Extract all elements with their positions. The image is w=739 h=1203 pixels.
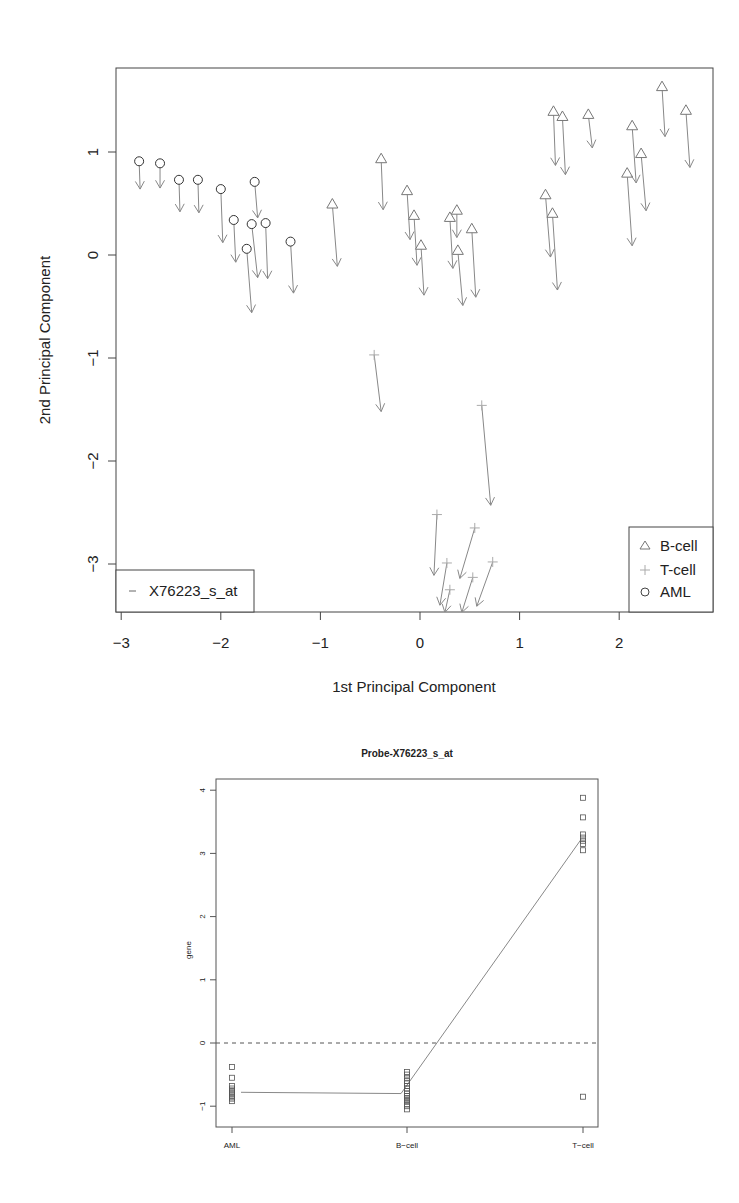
arrow-shaft	[247, 249, 252, 313]
bcell-point	[547, 208, 558, 218]
legend-aml-label: AML	[660, 583, 691, 600]
aml-point	[286, 237, 295, 246]
data-point	[230, 1099, 235, 1104]
aml-point	[216, 185, 225, 194]
arrow-shaft	[255, 182, 258, 218]
data-point	[581, 815, 586, 820]
plot-frame-2	[216, 779, 598, 1127]
bcell-point	[466, 223, 477, 233]
data-point	[230, 1091, 235, 1096]
data-point	[230, 1083, 235, 1088]
arrow-shaft	[374, 355, 381, 412]
data-point	[230, 1065, 235, 1070]
tcell-point	[477, 400, 487, 410]
bcell-point	[452, 245, 463, 255]
tcell-point	[369, 350, 379, 360]
aml-point	[156, 159, 165, 168]
data-point	[230, 1075, 235, 1080]
tcell-point	[468, 572, 478, 582]
bcell-point	[415, 240, 426, 250]
data-point	[405, 1083, 410, 1088]
plot-frame	[116, 68, 713, 612]
data-point	[230, 1088, 235, 1093]
y-tick-label: 2	[198, 914, 207, 919]
legend-gene: X76223_s_at	[116, 570, 254, 612]
data-point	[230, 1086, 235, 1091]
data-point	[581, 832, 586, 837]
arrow-shaft	[450, 218, 453, 268]
arrow-shaft	[266, 223, 268, 279]
arrow-shaft	[641, 154, 646, 211]
arrow-shaft	[662, 87, 665, 136]
mean-line	[241, 839, 581, 1093]
data-point	[581, 838, 586, 843]
arrow-shaft	[407, 191, 410, 239]
arrow-shaft	[627, 174, 632, 246]
arrow-shaft	[291, 242, 294, 293]
bcell-point	[627, 120, 638, 130]
y-tick-label: 4	[198, 787, 207, 792]
data-point	[405, 1097, 410, 1102]
x-tick-label: 2	[615, 634, 623, 651]
data-point	[405, 1095, 410, 1100]
arrow-shaft	[545, 195, 550, 257]
data-point	[405, 1072, 410, 1077]
aml-point	[174, 175, 183, 184]
data-point	[405, 1081, 410, 1086]
x-tick-label: −3	[113, 634, 130, 651]
aml-point	[193, 175, 202, 184]
data-point	[405, 1107, 410, 1112]
arrow-shaft	[477, 562, 493, 606]
arrow-shaft	[332, 205, 337, 267]
data-point	[405, 1099, 410, 1104]
data-point	[405, 1104, 410, 1109]
x-tick-label: −1	[312, 634, 329, 651]
arrow-shaft	[421, 246, 424, 295]
tcell-point	[445, 585, 455, 595]
arrow-shaft	[414, 216, 417, 265]
y-tick-label: −1	[198, 1101, 207, 1111]
data-point	[405, 1075, 410, 1080]
arrow-shaft	[458, 251, 463, 306]
bcell-point	[376, 153, 387, 163]
x-tick-label: 0	[416, 634, 424, 651]
legend-bcell-label: B-cell	[660, 537, 698, 554]
plot-marks	[135, 81, 694, 612]
tcell-point	[470, 523, 480, 533]
y-tick-label: −1	[84, 349, 101, 366]
y-axis-label-2: gene	[184, 941, 193, 959]
x-axis-label: 1st Principal Component	[332, 678, 496, 695]
legend-gene-label: X76223_s_at	[149, 582, 238, 599]
arrow-shaft	[686, 111, 690, 168]
y-axis-label: 2nd Principal Component	[36, 255, 53, 424]
bcell-point	[657, 81, 668, 91]
tcell-point	[432, 510, 442, 520]
pca-chart: −3−2−1012 10−1−2−3 1st Principal Compone…	[0, 0, 739, 720]
x-tick-label: 1	[515, 634, 523, 651]
y-tick-label: 1	[84, 148, 101, 156]
aml-point	[261, 219, 270, 228]
bcell-point	[636, 148, 647, 158]
bcell-point	[409, 210, 420, 220]
data-point	[581, 841, 586, 846]
data-point	[405, 1070, 410, 1075]
data-point	[405, 1091, 410, 1096]
x-tick-label: −2	[212, 634, 229, 651]
bcell-point	[583, 109, 594, 119]
arrow-shaft	[632, 126, 636, 183]
bcell-point	[451, 205, 462, 215]
arrow-shaft	[482, 405, 491, 505]
data-point	[405, 1094, 410, 1099]
y-tick-label: −3	[84, 555, 101, 572]
data-point	[581, 835, 586, 840]
data-point	[581, 795, 586, 800]
y-tick-label: 1	[198, 977, 207, 982]
y-tick-label: 3	[198, 851, 207, 856]
bcell-point	[680, 105, 691, 115]
y-tick-label: −2	[84, 452, 101, 469]
data-point	[581, 848, 586, 853]
chart-title: Probe-X76223_s_at	[361, 748, 453, 759]
arrow-shaft	[440, 563, 447, 605]
data-point	[405, 1086, 410, 1091]
y-tick-label: 0	[198, 1040, 207, 1045]
